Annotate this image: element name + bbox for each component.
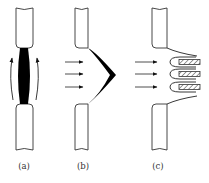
bottom-rod bbox=[75, 104, 88, 150]
bottom-rod bbox=[16, 104, 33, 150]
black-crescent bbox=[88, 48, 116, 104]
film-bottom bbox=[167, 96, 197, 104]
bottom-rod bbox=[152, 104, 167, 150]
figure-diagram: (a) (b) (c) bbox=[0, 0, 209, 183]
top-rod bbox=[152, 8, 167, 48]
panel-a: (a) bbox=[11, 8, 39, 171]
curved-arrow-left bbox=[11, 58, 13, 100]
curved-arrow-right bbox=[36, 58, 38, 100]
panel-b: (b) bbox=[65, 8, 116, 171]
panel-b-label: (b) bbox=[77, 161, 89, 171]
panel-a-label: (a) bbox=[18, 161, 30, 171]
top-rod bbox=[16, 8, 33, 48]
hatched-block-3 bbox=[179, 85, 200, 90]
panel-c-label: (c) bbox=[152, 161, 163, 171]
hatched-block-2 bbox=[179, 72, 200, 77]
black-neck bbox=[18, 48, 30, 104]
hatched-block-1 bbox=[179, 60, 200, 65]
film-top bbox=[167, 48, 197, 56]
top-rod bbox=[75, 8, 88, 48]
panel-c: (c) bbox=[135, 8, 200, 171]
